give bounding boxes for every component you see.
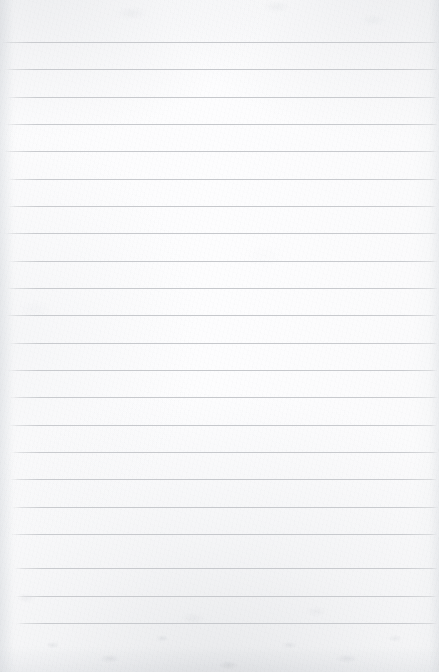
lined-paper-page (0, 0, 439, 672)
writing-area[interactable] (8, 42, 437, 624)
